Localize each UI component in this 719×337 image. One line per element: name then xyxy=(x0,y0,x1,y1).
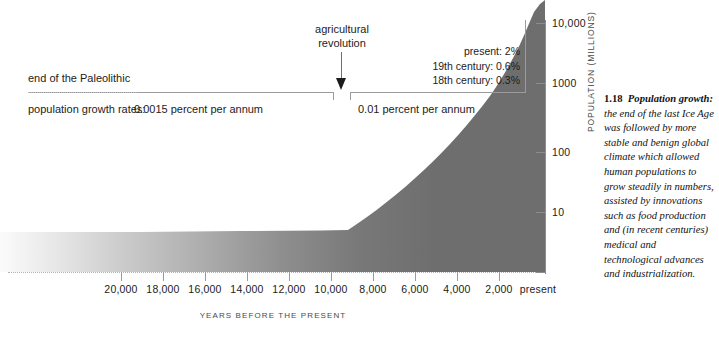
x-tick-label-present: present xyxy=(520,283,556,295)
x-tick-label-4000: 4,000 xyxy=(443,283,470,295)
growth-rate-post-agriculture-value: 0.01 percent per annum xyxy=(358,103,475,115)
x-tick-20000 xyxy=(121,272,122,281)
x-tick-label-10000: 10,000 xyxy=(314,283,347,295)
y-tick-baseline xyxy=(536,272,545,273)
annotation-end-of-paleolithic: end of the Paleolithic xyxy=(28,72,130,84)
y-tick-10 xyxy=(536,212,545,213)
x-tick-label-2000: 2,000 xyxy=(485,283,512,295)
x-tick-label-12000: 12,000 xyxy=(272,283,305,295)
y-tick-label-10: 10 xyxy=(552,206,564,218)
y-tick-100 xyxy=(536,152,545,153)
agricultural-revolution-line-1: agricultural xyxy=(276,22,408,36)
x-tick-18000 xyxy=(163,272,164,281)
figure-population-growth: 10,000 1000 100 10 POPULATION (MILLIONS)… xyxy=(0,0,719,337)
x-tick-6000 xyxy=(415,272,416,281)
figure-number: 1.18 xyxy=(604,93,623,104)
y-axis-title: POPULATION (MILLIONS) xyxy=(586,11,596,132)
y-tick-label-1000: 1000 xyxy=(552,77,577,89)
figure-caption: 1.18 Population growth: the end of the l… xyxy=(604,92,716,282)
annotation-agricultural-revolution: agricultural revolution xyxy=(276,22,408,50)
x-tick-label-6000: 6,000 xyxy=(401,283,428,295)
baseline-dotted-rule xyxy=(8,272,546,273)
down-arrow-icon xyxy=(336,78,346,90)
x-tick-2000 xyxy=(499,272,500,281)
growth-rate-bracket-left-endtick xyxy=(333,92,334,100)
x-tick-label-20000: 20,000 xyxy=(104,283,137,295)
growth-rate-bracket-right xyxy=(350,92,525,93)
growth-rate-bracket-left-dotted xyxy=(28,92,138,93)
chart-plot-area: 10,000 1000 100 10 POPULATION (MILLIONS)… xyxy=(0,0,546,337)
recent-rates-bracket-vertical xyxy=(525,20,526,93)
x-tick-4000 xyxy=(457,272,458,281)
recent-growth-rates-callout: present: 2% 19th century: 0.6% 18th cent… xyxy=(400,44,520,88)
y-tick-label-10000: 10,000 xyxy=(552,17,586,29)
x-tick-label-14000: 14,000 xyxy=(230,283,263,295)
agricultural-revolution-line-2: revolution xyxy=(276,36,408,50)
y-tick-10000 xyxy=(536,23,545,24)
x-tick-12000 xyxy=(289,272,290,281)
x-axis-title: YEARS BEFORE THE PRESENT xyxy=(0,311,546,320)
caption-heading: Population growth: xyxy=(628,93,713,104)
recent-rate-18th-century: 18th century: 0.3% xyxy=(400,73,520,88)
x-tick-label-16000: 16,000 xyxy=(188,283,221,295)
x-tick-label-18000: 18,000 xyxy=(146,283,179,295)
growth-rates-label: population growth rates: xyxy=(28,103,145,115)
x-tick-16000 xyxy=(205,272,206,281)
x-tick-8000 xyxy=(373,272,374,281)
caption-body: the end of the last Ice Age was followed… xyxy=(604,108,714,280)
growth-rate-bracket-right-starttick xyxy=(350,92,351,100)
x-tick-14000 xyxy=(247,272,248,281)
y-axis-spine xyxy=(545,20,546,274)
x-tick-10000 xyxy=(331,272,332,281)
agricultural-revolution-arrow-shaft xyxy=(341,52,342,80)
y-tick-1000 xyxy=(536,83,545,84)
growth-rate-paleolithic-value: 0.0015 percent per annum xyxy=(134,103,263,115)
recent-rate-19th-century: 19th century: 0.6% xyxy=(400,59,520,74)
y-tick-label-100: 100 xyxy=(552,146,570,158)
x-tick-label-8000: 8,000 xyxy=(359,283,386,295)
recent-rate-present: present: 2% xyxy=(400,44,520,59)
population-area-curve xyxy=(0,0,546,280)
